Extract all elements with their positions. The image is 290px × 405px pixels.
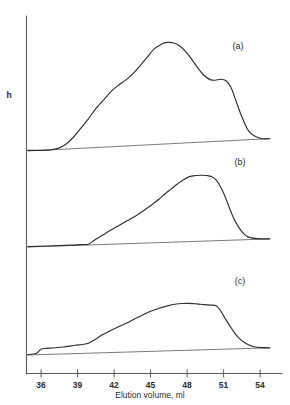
figure-canvas: 36394245485154 (a)(b)(c) h Elution volum… bbox=[0, 0, 290, 405]
elution-trace-panel-3 bbox=[28, 303, 270, 354]
panel-label-1: (a) bbox=[233, 41, 244, 51]
x-tick-label-39: 39 bbox=[73, 380, 83, 390]
x-tick-label-54: 54 bbox=[255, 380, 265, 390]
panel-label-3: (c) bbox=[235, 276, 246, 286]
panel-label-2: (b) bbox=[235, 157, 246, 167]
x-axis-tick-labels: 36394245485154 bbox=[36, 380, 265, 390]
x-tick-label-51: 51 bbox=[219, 380, 229, 390]
chromatogram-figure: 36394245485154 (a)(b)(c) h Elution volum… bbox=[0, 0, 290, 405]
x-tick-label-36: 36 bbox=[36, 380, 46, 390]
elution-trace-panel-2 bbox=[28, 175, 270, 246]
baseline-panel-3 bbox=[28, 348, 270, 355]
x-axis-title: Elution volume, ml bbox=[115, 390, 185, 400]
panel-labels: (a)(b)(c) bbox=[233, 41, 246, 286]
elution-traces bbox=[28, 42, 270, 354]
x-tick-label-42: 42 bbox=[109, 380, 119, 390]
panel-baselines bbox=[28, 139, 270, 355]
x-tick-label-45: 45 bbox=[146, 380, 156, 390]
x-tick-label-48: 48 bbox=[182, 380, 192, 390]
elution-trace-panel-1 bbox=[28, 42, 270, 150]
y-axis-title: h bbox=[6, 90, 11, 100]
